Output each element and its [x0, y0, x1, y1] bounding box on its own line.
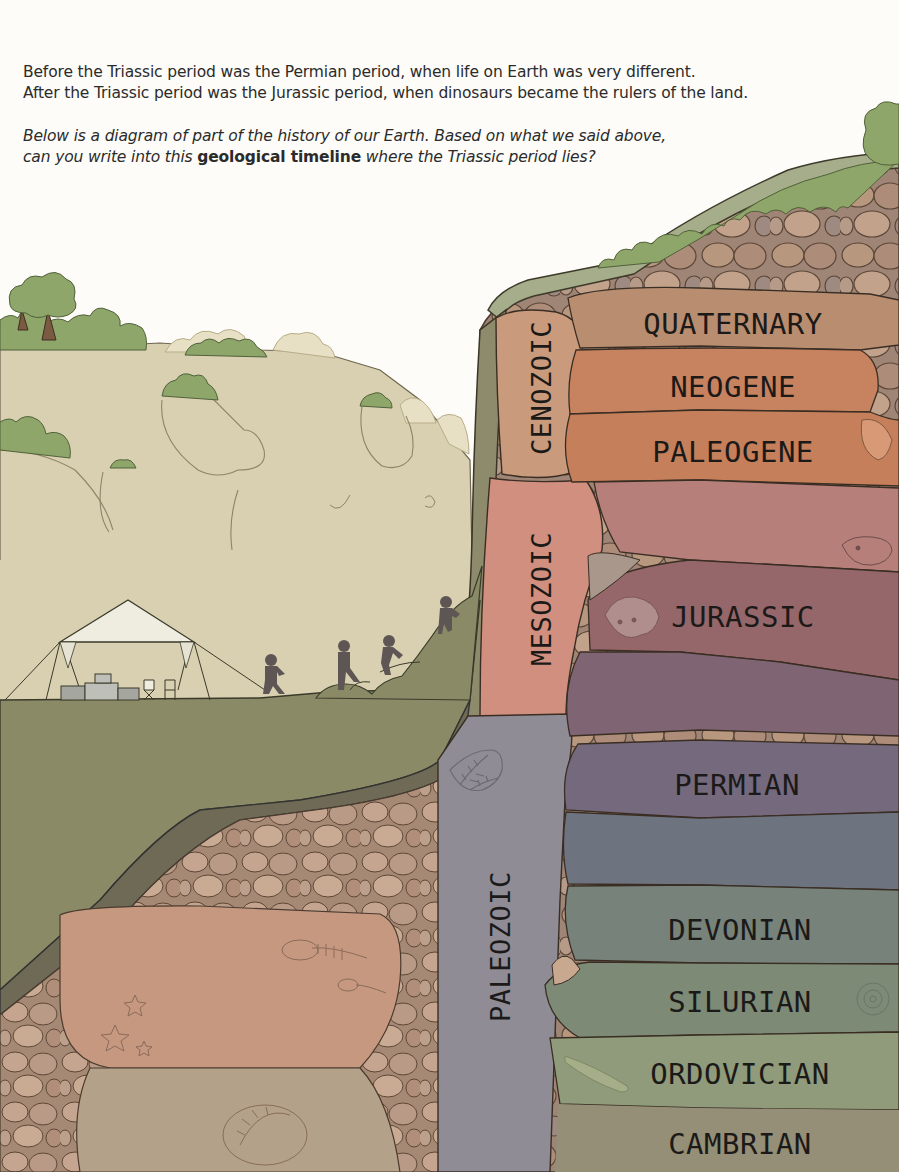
period-bands	[545, 287, 899, 1172]
period-label-permian: PERMIAN	[674, 768, 800, 802]
period-label-devonian: DEVONIAN	[668, 913, 812, 947]
period-label-silurian: SILURIAN	[668, 985, 812, 1019]
period-label-quaternary: QUATERNARY	[643, 307, 823, 341]
period-label-cambrian: CAMBRIAN	[668, 1127, 812, 1161]
period-label-paleogene: PALEOGENE	[652, 435, 814, 469]
period-label-neogene: NEOGENE	[670, 370, 796, 404]
era-label-paleozoic: PALEOZOIC	[485, 871, 516, 1022]
period-label-jurassic: JURASSIC	[671, 600, 815, 634]
geological-diagram: CENOZOIC MESOZOIC PALEOZOIC QUATERNARY N…	[0, 0, 899, 1172]
period-label-ordovician: ORDOVICIAN	[650, 1057, 830, 1091]
era-label-cenozoic: CENOZOIC	[526, 321, 557, 455]
band-paleozoic-blank	[563, 812, 899, 890]
era-label-mesozoic: MESOZOIC	[526, 532, 557, 666]
